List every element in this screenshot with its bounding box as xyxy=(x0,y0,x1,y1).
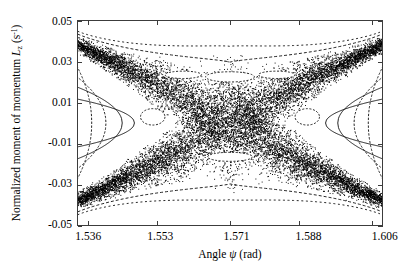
y-axis-symbol: L xyxy=(10,50,22,57)
y-tick-label: -0.01 xyxy=(48,136,72,148)
y-axis-title: Normalized moment of momentum Lz (s-1) xyxy=(10,25,24,222)
poincare-section-figure: Normalized moment of momentum Lz (s-1) 0… xyxy=(0,0,406,270)
phase-portrait-chart: Normalized moment of momentum Lz (s-1) 0… xyxy=(0,0,406,270)
y-tick-label: 0.05 xyxy=(52,15,72,27)
x-tick-label: 1.606 xyxy=(372,230,398,242)
y-tick-label: 0.03 xyxy=(52,55,72,67)
y-axis-title-text: Normalized moment of momentum xyxy=(10,56,22,221)
x-tick-label: 1.588 xyxy=(296,230,322,242)
x-tick-label: 1.553 xyxy=(147,230,173,242)
x-tick-label: 1.536 xyxy=(75,230,101,242)
x-axis-title-suffix: (rad) xyxy=(236,248,261,261)
svg-text:Angle ψ (rad): Angle ψ (rad) xyxy=(198,248,262,261)
svg-text:Normalized moment of momentum: Normalized moment of momentum Lz (s-1) xyxy=(10,25,24,222)
y-tick-label: 0.01 xyxy=(52,96,72,108)
y-axis-unit-open: (s xyxy=(10,34,23,46)
y-tick-label: -0.05 xyxy=(48,218,72,230)
x-axis-title-prefix: Angle xyxy=(198,248,229,261)
x-axis-title: Angle ψ (rad) xyxy=(198,248,262,261)
y-tick-label: -0.03 xyxy=(48,177,72,189)
x-tick-label: 1.571 xyxy=(224,230,250,242)
y-axis-unit-close: ) xyxy=(10,25,23,29)
